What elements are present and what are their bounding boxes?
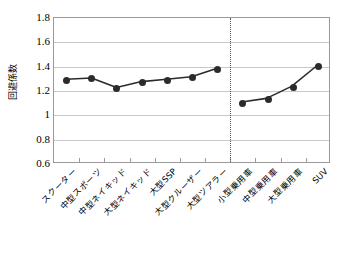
- series-line: [241, 66, 316, 102]
- group-divider-line: [230, 18, 231, 162]
- data-point-marker: [290, 84, 297, 91]
- data-point-marker: [214, 66, 221, 73]
- y-axis-title-text: 回避係数: [8, 64, 18, 100]
- x-axis-category-label: SUV: [312, 167, 331, 186]
- series-lines: [54, 18, 329, 162]
- y-axis-tick-label: 1.4: [22, 60, 50, 71]
- x-axis-category-labels: スクーター中型スポーツ中型ネイキッド大型ネイキッド大型SSP大型クルーザー大型ツ…: [0, 163, 341, 253]
- chart-container: 回避係数 1.81.61.41.210.80.6 スクーター中型スポーツ中型ネイ…: [0, 0, 341, 253]
- y-axis-tick-label: 1.8: [22, 12, 50, 23]
- data-point-marker: [63, 77, 70, 84]
- plot-area: [53, 17, 330, 163]
- data-point-marker: [139, 79, 146, 86]
- y-axis-tick-label: 1.6: [22, 36, 50, 47]
- y-axis-title: 回避係数: [2, 0, 24, 163]
- y-axis-tick-label: 0.8: [22, 133, 50, 144]
- data-point-marker: [164, 77, 171, 84]
- data-point-marker: [239, 100, 246, 107]
- x-axis-category-label: 大型ネイキッド: [103, 167, 154, 218]
- data-point-marker: [265, 96, 272, 103]
- y-axis-tick-label: 1: [22, 109, 50, 120]
- y-axis-tick-label: 1.2: [22, 85, 50, 96]
- data-point-marker: [315, 63, 322, 70]
